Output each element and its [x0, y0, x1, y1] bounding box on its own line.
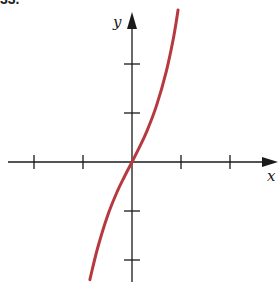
y-axis-label: y: [112, 13, 122, 31]
axes: [8, 12, 278, 282]
y-axis-arrow-icon: [127, 12, 137, 29]
function-curve: [90, 10, 178, 280]
function-graph: x y: [0, 0, 278, 282]
x-axis-label: x: [267, 167, 276, 185]
x-axis-arrow-icon: [262, 157, 278, 167]
